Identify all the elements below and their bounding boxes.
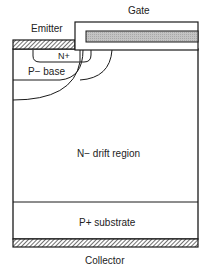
- device-body: [13, 49, 198, 239]
- collector-label: Collector: [85, 256, 124, 266]
- p-base-label: P− base: [28, 67, 65, 77]
- gate-label: Gate: [128, 6, 150, 16]
- igbt-cross-section: [0, 0, 210, 279]
- n-plus-label: N+: [58, 52, 70, 61]
- substrate-label: P+ substrate: [79, 218, 135, 228]
- emitter-label: Emitter: [31, 24, 63, 34]
- emitter-metal: [13, 40, 75, 49]
- gate-electrode: [86, 31, 198, 42]
- collector-metal: [13, 239, 198, 247]
- drift-region-label: N− drift region: [77, 149, 140, 159]
